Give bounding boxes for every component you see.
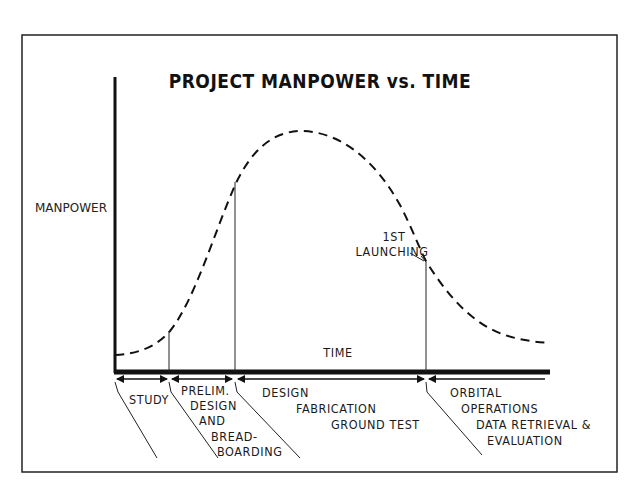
svg-text:STUDY: STUDY xyxy=(129,392,169,407)
manpower-curve xyxy=(115,131,550,355)
manpower-diagram: PROJECT MANPOWER vs. TIME MANPOWER TIME … xyxy=(0,0,640,501)
svg-text:AND: AND xyxy=(199,413,226,428)
svg-text:DESIGN: DESIGN xyxy=(190,398,237,413)
x-axis-label: TIME xyxy=(322,345,352,360)
phase-label-orbital: ORBITAL OPERATIONS DATA RETRIEVAL & EVAL… xyxy=(450,385,591,448)
svg-text:DATA RETRIEVAL &: DATA RETRIEVAL & xyxy=(476,417,591,432)
svg-text:PRELIM.: PRELIM. xyxy=(181,383,230,398)
diagram-canvas: PROJECT MANPOWER vs. TIME MANPOWER TIME … xyxy=(0,0,640,501)
svg-text:GROUND TEST: GROUND TEST xyxy=(331,417,420,432)
diagram-title: PROJECT MANPOWER vs. TIME xyxy=(169,70,472,92)
annotation-line1: 1ST xyxy=(383,229,406,244)
svg-text:ORBITAL: ORBITAL xyxy=(450,385,502,400)
svg-text:OPERATIONS: OPERATIONS xyxy=(461,401,538,416)
phase-label-study: STUDY xyxy=(129,392,169,407)
y-axis-label: MANPOWER xyxy=(35,201,107,215)
svg-text:DESIGN: DESIGN xyxy=(262,385,309,400)
svg-text:EVALUATION: EVALUATION xyxy=(487,433,563,448)
svg-text:BREAD-: BREAD- xyxy=(211,429,258,444)
phase-label-design: DESIGN FABRICATION GROUND TEST xyxy=(262,385,420,432)
svg-text:FABRICATION: FABRICATION xyxy=(296,401,376,416)
svg-text:BOARDING: BOARDING xyxy=(217,444,283,459)
